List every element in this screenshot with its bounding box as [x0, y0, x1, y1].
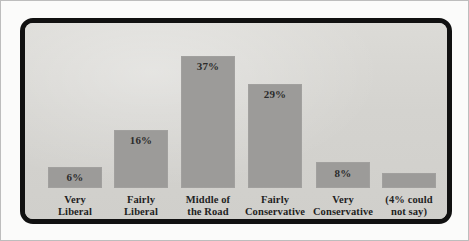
bar-could-not-say — [382, 173, 436, 188]
bar-label-line1: Very — [332, 194, 354, 205]
bar-label-line2: Liberal — [106, 206, 176, 218]
bar-label-could-not-say: (4% could not say) — [374, 194, 444, 217]
bar-label-line2: not say) — [374, 206, 444, 218]
figure-root: 6% Very Liberal 16% Fairly Liberal 37% — [0, 0, 469, 241]
bar-value-middle-of-the-road: 37% — [181, 60, 235, 72]
bar-label-middle-of-the-road: Middle of the Road — [173, 194, 243, 217]
bar-label-line2: the Road — [173, 206, 243, 218]
bar-label-line2: Conservative — [308, 206, 378, 218]
bar-label-line2: Liberal — [40, 206, 110, 218]
bar-value-very-conservative: 8% — [316, 167, 370, 179]
bar-value-fairly-liberal: 16% — [114, 134, 168, 146]
bar-chart-plot-area: 6% Very Liberal 16% Fairly Liberal 37% — [25, 23, 447, 219]
bar-label-very-liberal: Very Liberal — [40, 194, 110, 217]
bar-label-line2: Conservative — [240, 206, 310, 218]
bar-label-line1: Very — [64, 194, 86, 205]
bar-middle-of-the-road — [181, 56, 235, 188]
bar-label-fairly-conservative: Fairly Conservative — [240, 194, 310, 217]
bar-value-very-liberal: 6% — [48, 171, 102, 183]
chart-frame: 6% Very Liberal 16% Fairly Liberal 37% — [20, 18, 452, 224]
bar-label-line1: Fairly — [127, 194, 155, 205]
bar-label-very-conservative: Very Conservative — [308, 194, 378, 217]
bar-label-line1: (4% could — [385, 194, 432, 205]
bar-label-line1: Fairly — [261, 194, 289, 205]
bar-label-fairly-liberal: Fairly Liberal — [106, 194, 176, 217]
bar-label-line1: Middle of — [186, 194, 230, 205]
bar-value-fairly-conservative: 29% — [248, 88, 302, 100]
